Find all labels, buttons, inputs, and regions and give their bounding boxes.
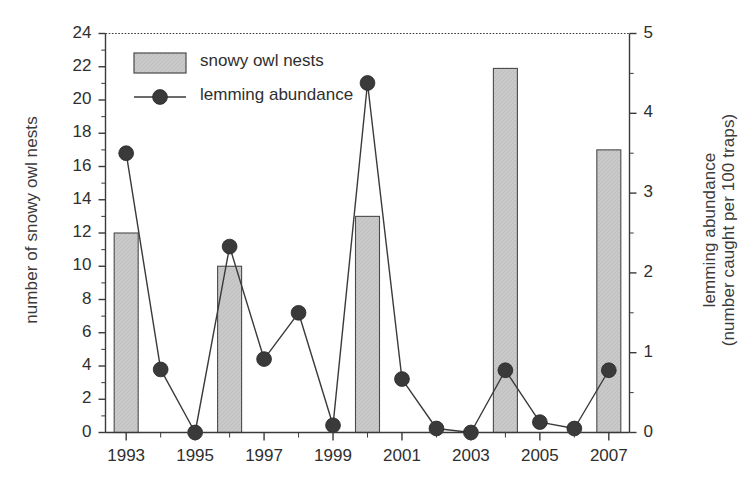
y-axis-right-tick-label-0: 0 <box>644 422 684 442</box>
bar-1993 <box>114 233 138 433</box>
data-point-1996 <box>222 239 237 254</box>
y-axis-left-tick-label-10: 10 <box>36 255 92 275</box>
y-axis-left-tick-label-22: 22 <box>36 56 92 76</box>
data-point-1998 <box>291 305 306 320</box>
x-axis-tick-label-2007: 2007 <box>569 446 649 466</box>
y-axis-left-tick-label-24: 24 <box>36 23 92 43</box>
bar-series-snowy-owl-nests <box>114 68 621 432</box>
legend-label-snowy-owl-nests: snowy owl nests <box>200 51 324 71</box>
y-axis-right-title-line2: (number caught per 100 traps) <box>719 30 738 430</box>
y-axis-left-tick-label-20: 20 <box>36 89 92 109</box>
legend <box>134 53 186 104</box>
y-axis-left-tick-label-0: 0 <box>36 422 92 442</box>
plot-canvas <box>0 0 743 487</box>
bar-2000 <box>356 216 380 432</box>
data-point-2000 <box>360 76 375 91</box>
y-axis-left-tick-label-8: 8 <box>36 289 92 309</box>
data-point-1993 <box>119 146 134 161</box>
data-point-2005 <box>532 415 547 430</box>
y-axis-right-tick-label-4: 4 <box>644 102 684 122</box>
bar-2007 <box>597 150 621 433</box>
data-point-1999 <box>326 418 341 433</box>
y-axis-right-tick-label-3: 3 <box>644 182 684 202</box>
data-point-1994 <box>153 362 168 377</box>
y-axis-right-title-line1: lemming abundance <box>700 30 719 430</box>
y-axis-left-tick-label-4: 4 <box>36 355 92 375</box>
y-axis-right-tick-label-1: 1 <box>644 342 684 362</box>
y-axis-left-tick-label-18: 18 <box>36 122 92 142</box>
legend-label-lemming-abundance: lemming abundance <box>200 85 353 105</box>
chart-figure: number of snowy owl nests lemming abunda… <box>0 0 743 487</box>
y-axis-left-tick-label-14: 14 <box>36 189 92 209</box>
y-axis-left-tick-label-2: 2 <box>36 388 92 408</box>
y-axis-left-tick-label-6: 6 <box>36 322 92 342</box>
legend-swatch-snowy-owl-nests <box>134 53 186 73</box>
data-point-2001 <box>395 372 410 387</box>
data-point-2004 <box>498 363 513 378</box>
data-point-2007 <box>601 363 616 378</box>
data-point-1997 <box>257 352 272 367</box>
y-axis-left-tick-label-12: 12 <box>36 222 92 242</box>
legend-marker-lemming-abundance <box>153 90 168 105</box>
y-axis-right-tick-label-5: 5 <box>644 23 684 43</box>
y-axis-left-tick-label-16: 16 <box>36 156 92 176</box>
y-axis-right-title: lemming abundance (number caught per 100… <box>700 30 738 430</box>
y-axis-right-tick-label-2: 2 <box>644 262 684 282</box>
